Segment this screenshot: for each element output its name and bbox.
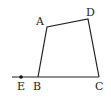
quadrilateral-abcd <box>38 19 99 77</box>
label-d: D <box>86 6 95 19</box>
geometry-diagram: A D B C E <box>0 0 111 106</box>
label-a: A <box>35 15 45 28</box>
label-c: C <box>95 80 103 93</box>
label-b: B <box>33 80 41 93</box>
label-e: E <box>17 80 25 93</box>
point-e-dot <box>19 75 23 79</box>
